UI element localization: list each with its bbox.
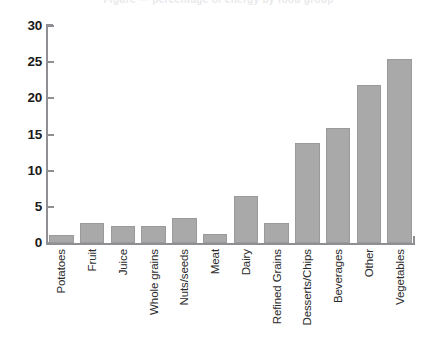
- x-axis-label-slot: Vegetables: [384, 249, 415, 343]
- x-axis-label-slot: Whole grains: [138, 249, 169, 343]
- x-axis-label: Potatoes: [56, 249, 67, 294]
- y-axis-tick-label-slot: 20: [0, 91, 42, 104]
- x-axis-label: Meat: [210, 249, 221, 274]
- bar: [111, 226, 136, 243]
- x-axis-label: Nuts/seeds: [179, 249, 190, 306]
- y-axis-tick-label-slot: 0: [0, 236, 42, 249]
- x-axis-label-slot: Fruit: [77, 249, 108, 343]
- bar-chart: Figure — percentage of energy by food gr…: [0, 0, 437, 345]
- x-axis-label-slot: Dairy: [231, 249, 262, 343]
- bar: [203, 234, 228, 243]
- bar: [326, 128, 351, 243]
- x-axis-label: Juice: [117, 249, 128, 275]
- bar: [49, 235, 74, 243]
- x-axis-label: Beverages: [333, 249, 344, 303]
- x-axis-label: Other: [363, 249, 374, 277]
- x-axis-label-slot: Beverages: [323, 249, 354, 343]
- x-axis-label-slot: Juice: [108, 249, 139, 343]
- x-axis-line: [46, 243, 415, 245]
- bar: [357, 85, 382, 243]
- x-axis-label-slot: Other: [354, 249, 385, 343]
- clipped-caption-text: Figure — percentage of energy by food gr…: [0, 0, 437, 6]
- y-axis-tick-label: 15: [4, 128, 42, 141]
- bar: [234, 196, 259, 243]
- y-axis-tick-label-slot: 10: [0, 164, 42, 177]
- x-axis-label-slot: Meat: [200, 249, 231, 343]
- x-axis-label: Whole grains: [148, 249, 159, 315]
- x-axis-label: Desserts/Chips: [302, 249, 313, 326]
- x-axis-label: Dairy: [240, 249, 251, 275]
- y-axis-tick-label: 5: [4, 200, 42, 213]
- x-axis-label: Refined Grains: [271, 249, 282, 324]
- x-axis-label-slot: Refined Grains: [261, 249, 292, 343]
- y-axis-tick-label: 10: [4, 164, 42, 177]
- bar: [141, 226, 166, 243]
- y-axis-tick-label-slot: 5: [0, 200, 42, 213]
- x-axis-label: Fruit: [87, 249, 98, 272]
- y-axis-tick-label-slot: 25: [0, 55, 42, 68]
- bar: [80, 223, 105, 243]
- x-axis-label-slot: Nuts/seeds: [169, 249, 200, 343]
- y-axis-tick-label: 25: [4, 55, 42, 68]
- y-axis-tick-label: 0: [4, 236, 42, 249]
- x-axis-label: Vegetables: [394, 249, 405, 305]
- x-axis-label-slot: Potatoes: [46, 249, 77, 343]
- bar: [172, 218, 197, 243]
- bar: [387, 59, 412, 243]
- bar: [264, 223, 289, 243]
- plot-area: [46, 26, 415, 243]
- y-axis-tick-label-slot: 30: [0, 19, 42, 32]
- y-axis-tick-label-slot: 15: [0, 128, 42, 141]
- x-axis-label-slot: Desserts/Chips: [292, 249, 323, 343]
- y-axis-tick-label: 20: [4, 91, 42, 104]
- bar: [295, 143, 320, 243]
- y-axis-tick-label: 30: [4, 19, 42, 32]
